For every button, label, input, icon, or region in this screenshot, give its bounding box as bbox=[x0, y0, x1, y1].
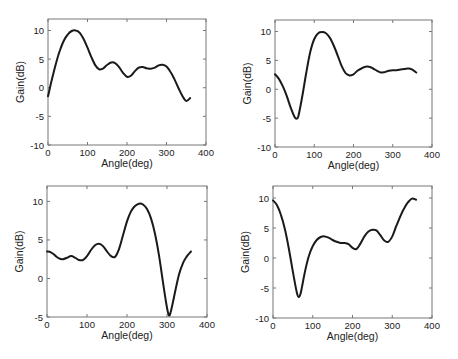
x-tick-label: 300 bbox=[159, 147, 175, 158]
x-tick-label: 300 bbox=[384, 320, 400, 331]
gain-curve bbox=[47, 204, 191, 316]
x-axis-label: Angle(deg) bbox=[327, 330, 378, 342]
plot-bottom-right: 0100200300400-10-50510Angle(deg)Gain(dB) bbox=[239, 186, 440, 342]
y-tick-label: 5 bbox=[264, 223, 269, 234]
y-tick-label: 10 bbox=[260, 26, 271, 37]
x-tick-label: 0 bbox=[272, 149, 277, 160]
y-tick-label: -10 bbox=[257, 142, 271, 153]
y-tick-label: 0 bbox=[266, 84, 271, 95]
y-tick-label: -5 bbox=[36, 111, 44, 122]
y-axis-label: Gain(dB) bbox=[13, 230, 25, 272]
y-tick-label: 0 bbox=[264, 253, 269, 264]
axes-box bbox=[47, 186, 207, 317]
x-axis-label: Angle(deg) bbox=[328, 159, 379, 171]
x-tick-label: 0 bbox=[44, 319, 49, 330]
figure: 0100200300400-10-50510Angle(deg)Gain(dB)… bbox=[0, 0, 458, 359]
gain-curve bbox=[273, 199, 416, 297]
y-tick-label: 5 bbox=[266, 55, 271, 66]
y-axis-label: Gain(dB) bbox=[241, 62, 253, 104]
gain-curve bbox=[48, 30, 190, 101]
x-tick-label: 400 bbox=[199, 319, 215, 330]
y-tick-label: -5 bbox=[261, 283, 269, 294]
gain-curve bbox=[275, 32, 416, 119]
x-tick-label: 300 bbox=[159, 319, 175, 330]
y-tick-label: 10 bbox=[32, 196, 43, 207]
x-tick-label: 400 bbox=[424, 149, 440, 160]
x-tick-label: 100 bbox=[79, 319, 95, 330]
plot-top-right: 0100200300400-10-50510Angle(deg)Gain(dB) bbox=[241, 20, 440, 171]
x-tick-label: 0 bbox=[45, 147, 50, 158]
y-tick-label: 0 bbox=[39, 82, 44, 93]
y-tick-label: 10 bbox=[33, 25, 44, 36]
axes-box bbox=[275, 20, 432, 147]
x-tick-label: 100 bbox=[306, 149, 322, 160]
plot-bottom-left: 0100200300400-50510Angle(deg)Gain(dB) bbox=[13, 186, 215, 341]
x-axis-label: Angle(deg) bbox=[101, 157, 152, 169]
x-tick-label: 100 bbox=[305, 320, 321, 331]
axes-box bbox=[273, 186, 432, 318]
x-tick-label: 400 bbox=[424, 320, 440, 331]
x-tick-label: 0 bbox=[270, 320, 275, 331]
x-tick-label: 400 bbox=[198, 147, 214, 158]
y-tick-label: 0 bbox=[38, 273, 43, 284]
plot-top-left: 0100200300400-10-50510Angle(deg)Gain(dB) bbox=[14, 19, 214, 169]
y-tick-label: 5 bbox=[39, 54, 44, 65]
y-tick-label: -5 bbox=[263, 113, 271, 124]
y-tick-label: -10 bbox=[30, 140, 44, 151]
x-axis-label: Angle(deg) bbox=[101, 329, 152, 341]
y-tick-label: -5 bbox=[35, 312, 43, 323]
x-tick-label: 300 bbox=[385, 149, 401, 160]
y-axis-label: Gain(dB) bbox=[14, 61, 26, 103]
y-tick-label: 5 bbox=[38, 234, 43, 245]
x-tick-label: 100 bbox=[80, 147, 96, 158]
y-axis-label: Gain(dB) bbox=[239, 231, 251, 273]
axes-box bbox=[48, 19, 206, 145]
y-tick-label: 10 bbox=[258, 193, 269, 204]
y-tick-label: -10 bbox=[255, 313, 269, 324]
